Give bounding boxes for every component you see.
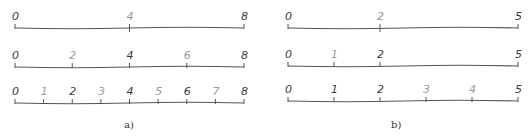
tick-label: 3 [98,85,105,98]
panel-a: 04802468012345678 [12,10,248,104]
tick-label: 8 [241,10,248,23]
tick-label: 1 [331,83,338,96]
tick-label: 4 [127,85,134,98]
tick-label: 3 [423,83,430,96]
number-line: 02468 [12,49,248,68]
panel-b: 0250125012345 [285,10,522,102]
tick-label: 5 [515,48,522,61]
tick-label: 2 [69,49,76,62]
tick-label: 8 [241,49,248,62]
segment-line [288,100,518,102]
tick-label: 4 [127,10,134,23]
tick-label: 0 [12,49,19,62]
caption-b: b) [391,119,401,130]
tick-label: 2 [377,10,384,23]
tick-label: 6 [184,85,191,98]
number-line: 025 [285,10,522,32]
tick-label: 5 [155,85,162,98]
tick-label: 0 [12,85,19,98]
number-line: 012345 [285,83,522,102]
tick-label: 0 [285,48,292,61]
tick-label: 7 [212,85,219,98]
segment-line [288,27,518,29]
tick-label: 5 [515,10,522,23]
number-line: 012345678 [12,85,248,104]
number-line: 048 [12,10,248,32]
tick-label: 0 [285,83,292,96]
segment-line [288,65,518,67]
tick-label: 8 [241,85,248,98]
segment-division-diagram: 04802468012345678 0250125012345 a) b) [0,0,530,136]
number-line: 0125 [285,48,522,67]
tick-label: 2 [69,85,76,98]
tick-label: 4 [127,49,134,62]
tick-label: 0 [285,10,292,23]
tick-label: 0 [12,10,19,23]
tick-label: 5 [515,83,522,96]
tick-label: 6 [184,49,191,62]
tick-label: 1 [331,48,338,61]
tick-label: 2 [377,48,384,61]
tick-label: 1 [41,85,48,98]
caption-a: a) [124,119,134,130]
tick-label: 4 [469,83,476,96]
tick-label: 2 [377,83,384,96]
